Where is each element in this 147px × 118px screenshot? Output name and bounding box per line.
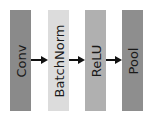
arrow-batchnorm-to-relu: [69, 55, 85, 65]
arrow-relu-to-pool: [106, 55, 122, 65]
block-pool: Pool: [122, 10, 143, 111]
block-label-conv: Conv: [14, 44, 27, 77]
block-label-batchnorm: BatchNorm: [52, 24, 65, 97]
layer-pipeline-diagram: Conv BatchNorm ReLU Pool: [0, 0, 147, 118]
arrow-right-icon: [69, 55, 85, 65]
arrow-conv-to-batchnorm: [31, 55, 48, 65]
arrow-right-icon: [31, 55, 48, 65]
arrow-right-icon: [106, 55, 122, 65]
block-batchnorm: BatchNorm: [48, 10, 69, 111]
block-label-pool: Pool: [126, 47, 139, 74]
block-label-relu: ReLU: [89, 44, 102, 77]
block-relu: ReLU: [85, 10, 106, 111]
block-conv: Conv: [10, 10, 31, 111]
